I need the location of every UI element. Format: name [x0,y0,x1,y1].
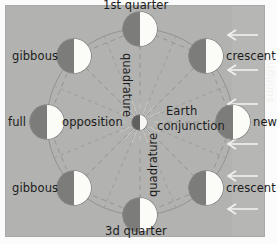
earth-body [132,115,147,130]
moon-crescent-upper [189,39,223,73]
label-quadrature-bottom: quadrature [146,133,160,197]
moon-lit-half [206,171,223,205]
moon-lit-half [140,12,157,46]
label-full: full [8,116,26,128]
label-third-quarter: 3d quarter [105,225,167,237]
moon-first-quarter [123,12,157,46]
moon-gibbous-lower [57,171,91,205]
label-crescent-lower: crescent [226,182,276,194]
earth-lit-half [140,115,148,130]
moon-dark-half [57,39,74,73]
moon-lit-half [206,39,223,73]
moon-dark-half [30,105,47,139]
moon-dark-half [189,171,206,205]
moon-phase-figure: 1st quarter gibbous full gibbous 3d quar… [0,0,277,244]
label-sunlight: sunlight [263,57,276,103]
moon-dark-half [189,39,206,73]
label-quadrature-top: quadrature [120,53,134,117]
moon-lit-half [74,39,91,73]
label-gibbous-lower: gibbous [12,182,58,194]
earth-dark-half [132,115,140,130]
label-conjunction: conjunction [157,120,225,132]
moon-full [30,105,64,139]
label-first-quarter: 1st quarter [103,0,168,11]
moon-lit-half [74,171,91,205]
label-earth: Earth [166,105,197,117]
sunlight-arrow [228,204,258,214]
moon-lit-half [233,105,250,139]
sunlight-arrow [228,30,258,40]
label-new: new [253,116,277,128]
label-opposition: opposition [62,116,123,128]
moon-crescent-lower [189,171,223,205]
sunlight-arrow [228,171,258,181]
moon-dark-half [123,12,140,46]
sunlight-arrow [228,65,258,75]
moon-gibbous-upper [57,39,91,73]
moon-dark-half [57,171,74,205]
sunlight-arrow [228,139,258,149]
label-gibbous-upper: gibbous [12,50,58,62]
